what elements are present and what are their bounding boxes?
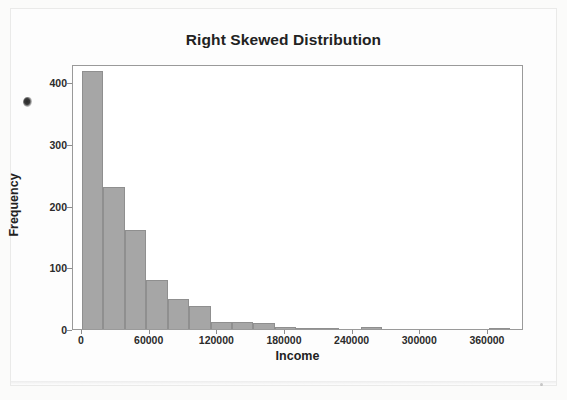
y-axis-title: Frequency: [7, 173, 21, 236]
y-tick-label: 100: [29, 262, 67, 274]
x-tick-mark: [352, 330, 353, 334]
histogram-bar: [168, 299, 189, 329]
x-tick-mark: [149, 330, 150, 334]
histogram-bar: [318, 328, 339, 329]
y-tick-label: 200: [29, 201, 67, 213]
x-tick-mark: [487, 330, 488, 334]
x-tick-mark: [419, 330, 420, 334]
histogram-bar: [232, 322, 253, 329]
y-tick-mark: [67, 83, 72, 84]
x-tick-label: 0: [78, 334, 84, 346]
x-tick-label: 120000: [199, 334, 234, 346]
y-tick-label: 400: [29, 77, 67, 89]
histogram-bar: [253, 323, 274, 329]
x-tick-mark: [216, 330, 217, 334]
chart-title: Right Skewed Distribution: [0, 31, 567, 49]
histogram-figure: Right Skewed Distribution 0100200300400 …: [0, 0, 567, 400]
x-tick-mark: [81, 330, 82, 334]
scanned-page: Right Skewed Distribution 0100200300400 …: [0, 0, 567, 400]
x-tick-label: 60000: [134, 334, 163, 346]
y-tick-label: 300: [29, 139, 67, 151]
histogram-bar: [489, 328, 510, 329]
x-axis-title: Income: [72, 349, 523, 363]
y-tick-label: 0: [29, 324, 67, 336]
y-tick-mark: [67, 145, 72, 146]
x-tick-label: 180000: [266, 334, 301, 346]
plot-area: [72, 65, 523, 330]
histogram-bar: [82, 71, 103, 329]
histogram-bar: [125, 230, 146, 329]
histogram-bar: [296, 328, 317, 329]
y-axis-tick-labels: 0100200300400: [22, 0, 67, 400]
histogram-bar: [211, 322, 232, 329]
x-tick-label: 240000: [334, 334, 369, 346]
x-tick-mark: [284, 330, 285, 334]
histogram-bar: [189, 306, 210, 329]
histogram-bar: [275, 327, 296, 329]
x-tick-label: 300000: [402, 334, 437, 346]
x-tick-label: 360000: [469, 334, 504, 346]
y-tick-mark: [67, 268, 72, 269]
histogram-bar: [103, 187, 124, 329]
histogram-bar: [361, 327, 382, 329]
histogram-bar: [146, 280, 167, 329]
y-tick-mark: [67, 330, 72, 331]
histogram-bars: [73, 66, 522, 329]
y-tick-mark: [67, 207, 72, 208]
